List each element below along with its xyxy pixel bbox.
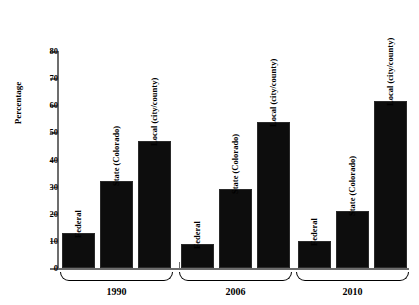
x-axis-separator xyxy=(179,262,180,269)
y-tick-label: 0 xyxy=(22,263,58,273)
bar-label: Federal xyxy=(309,218,319,246)
bar-chart: Percentage 01020304050607080 FederalStat… xyxy=(0,0,419,305)
bar-label: State (Colorado) xyxy=(111,126,121,186)
x-axis-line xyxy=(57,268,409,270)
bar-label: Local (city/county) xyxy=(268,58,278,126)
bar xyxy=(336,211,369,268)
bar xyxy=(374,101,407,268)
bar xyxy=(100,181,133,268)
bar-label: Federal xyxy=(192,221,202,249)
bar xyxy=(219,189,252,268)
y-tick-label: 30 xyxy=(22,182,58,192)
bar xyxy=(257,122,290,268)
y-tick-label: 20 xyxy=(22,209,58,219)
group-label: 1990 xyxy=(62,286,171,297)
bar xyxy=(62,233,95,268)
y-tick-label: 50 xyxy=(22,127,58,137)
group-label: 2010 xyxy=(298,286,407,297)
y-tick-label: 60 xyxy=(22,100,58,110)
y-tick-label: 40 xyxy=(22,155,58,165)
y-tick-label: 10 xyxy=(22,236,58,246)
bar-label: Federal xyxy=(73,210,83,238)
group-brace xyxy=(296,272,409,281)
bar xyxy=(138,141,171,268)
group-brace xyxy=(179,272,292,281)
bar-label: State (Colorado) xyxy=(347,156,357,216)
bar-label: Local (city/county) xyxy=(385,38,395,106)
bar-label: Local (city/county) xyxy=(149,77,159,145)
bar-label: State (Colorado) xyxy=(230,134,240,194)
y-tick-label: 80 xyxy=(22,46,58,56)
y-tick-label: 70 xyxy=(22,73,58,83)
group-label: 2006 xyxy=(181,286,290,297)
group-brace xyxy=(60,272,173,281)
